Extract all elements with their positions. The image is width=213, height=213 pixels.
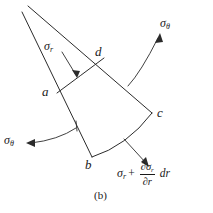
radial-line-lower: [22, 12, 92, 157]
differential-dr: dr: [160, 168, 170, 180]
sigma-theta-top-arrowhead: [155, 33, 163, 43]
sigma-theta-left-subscript: θ: [10, 139, 14, 148]
label-sigma-r-outer: σr + ∂σr ∂r dr: [117, 161, 170, 187]
outer-arc-bc: [92, 113, 152, 157]
sigma-theta-left-tick: [76, 121, 77, 131]
label-point-d: d: [95, 45, 102, 58]
sigma-theta-top-arrow-shaft: [128, 38, 158, 86]
inner-arc-ad: [57, 58, 104, 93]
stress-element-figure: σr σθ σθ a b c d σr + ∂σr ∂r dr (b): [0, 0, 213, 213]
sigma-r-outer-subscript: r: [123, 172, 126, 181]
sigma-theta-left-arrow-shaft: [31, 128, 76, 143]
label-point-b: b: [85, 158, 92, 171]
sigma-r-outer-arrow-shaft: [124, 139, 146, 163]
sigma-theta-left-arrowhead: [26, 139, 35, 147]
label-point-c: c: [157, 106, 163, 119]
label-point-a: a: [42, 85, 49, 98]
sigma-r-inner-subscript: r: [50, 45, 53, 54]
label-sigma-theta-left: σθ: [4, 134, 14, 148]
fraction-denominator: ∂r: [142, 176, 153, 187]
plus-sign: +: [128, 168, 135, 180]
wedge-diagram: [0, 0, 213, 213]
label-sigma-theta-top: σθ: [160, 17, 170, 31]
sigma-theta-top-subscript: θ: [166, 22, 170, 31]
fraction-numerator-subscript: r: [151, 166, 154, 174]
fraction-numerator: ∂σr: [140, 161, 155, 174]
label-sigma-r-inner: σr: [44, 40, 53, 54]
figure-caption: (b): [94, 190, 107, 201]
partial-derivative-fraction: ∂σr ∂r: [140, 161, 155, 187]
sigma-r-outer-base: σr: [117, 167, 126, 181]
fraction-numerator-text: ∂σ: [141, 161, 151, 172]
